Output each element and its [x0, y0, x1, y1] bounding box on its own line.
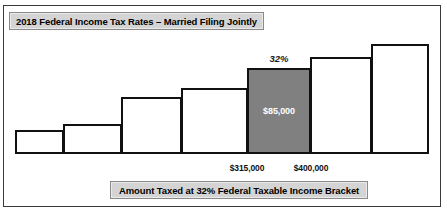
bracket-upper-tick-label: $400,000: [279, 163, 343, 173]
screenshot-root: $85,000 32% $315,000 $400,000 2018 Feder…: [0, 0, 447, 213]
bar-7: [371, 44, 429, 154]
bracket-lower-tick-label: $315,000: [215, 163, 279, 173]
chart-caption: Amount Taxed at 32% Federal Taxable Inco…: [110, 181, 368, 199]
bar-4: [181, 88, 248, 154]
chart-title: 2018 Federal Income Tax Rates – Married …: [9, 12, 264, 30]
bar-5-highlighted: $85,000: [247, 68, 311, 154]
bar-value-label: $85,000: [249, 106, 309, 116]
highlighted-rate-label: 32%: [247, 53, 311, 64]
bar-1: [15, 130, 64, 154]
bar-2: [63, 124, 122, 154]
bar-3: [121, 97, 182, 154]
bar-6: [310, 57, 372, 154]
